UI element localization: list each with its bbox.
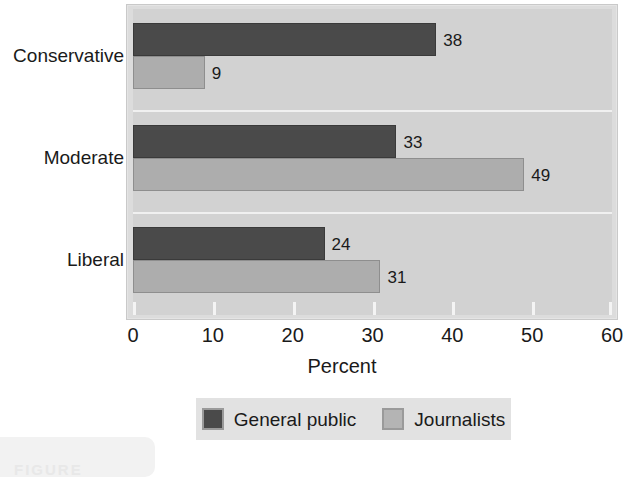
- bar-general-public: [133, 23, 436, 56]
- bar-journalists: [133, 56, 205, 89]
- legend-swatch-icon: [202, 408, 224, 430]
- category-axis-labels: ConservativeModerateLiberal: [0, 0, 124, 316]
- bar-value-label: 33: [403, 134, 422, 151]
- x-axis-tick: [373, 302, 376, 315]
- x-axis-tick: [213, 302, 216, 315]
- x-axis-tick: [532, 302, 535, 315]
- x-axis-tick-label: 60: [592, 325, 632, 345]
- x-axis-tick: [133, 302, 136, 315]
- x-axis-tick: [452, 302, 455, 315]
- bar-value-label: 24: [332, 236, 351, 253]
- chart-legend: General public Journalists: [196, 398, 511, 440]
- bar-value-label: 38: [443, 32, 462, 49]
- x-axis-title: Percent: [0, 356, 634, 376]
- legend-label: General public: [234, 410, 357, 429]
- bar-general-public: [133, 125, 396, 158]
- x-axis-tick-label: 0: [113, 325, 153, 345]
- bar-value-label: 9: [212, 65, 221, 82]
- x-axis-tick-label: 40: [432, 325, 472, 345]
- category-label: Liberal: [2, 250, 124, 269]
- bar-general-public: [133, 227, 325, 260]
- x-axis-tick-label: 20: [273, 325, 313, 345]
- x-axis-tick-label: 10: [193, 325, 233, 345]
- bar-journalists: [133, 260, 380, 293]
- category-label: Conservative: [2, 46, 124, 65]
- x-axis-tick-label: 50: [512, 325, 552, 345]
- legend-item-journalists: Journalists: [382, 408, 505, 430]
- grid-line: [133, 212, 612, 214]
- bar-value-label: 31: [387, 269, 406, 286]
- grid-line: [133, 110, 612, 112]
- legend-label: Journalists: [414, 410, 505, 429]
- bar-value-label: 49: [531, 167, 550, 184]
- x-axis-tick-label: 30: [353, 325, 393, 345]
- category-label: Moderate: [2, 148, 124, 167]
- x-axis-tick: [609, 302, 612, 315]
- plot-area: [133, 9, 612, 315]
- x-axis-tick: [293, 302, 296, 315]
- x-axis-title-text: Percent: [308, 355, 377, 377]
- legend-swatch-icon: [382, 408, 404, 430]
- legend-item-general-public: General public: [202, 408, 357, 430]
- caption-label: FIGURE: [14, 462, 83, 477]
- bar-journalists: [133, 158, 524, 191]
